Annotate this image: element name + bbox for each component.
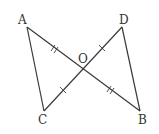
label-o: O bbox=[78, 52, 88, 66]
label-b: B bbox=[138, 113, 147, 127]
label-a: A bbox=[17, 13, 27, 27]
segment-db bbox=[122, 27, 140, 111]
segment-ac bbox=[27, 27, 44, 111]
geometry-diagram: A D O C B bbox=[0, 0, 159, 134]
segment-cd bbox=[44, 27, 122, 111]
label-c: C bbox=[38, 113, 47, 127]
label-d: D bbox=[119, 13, 129, 27]
